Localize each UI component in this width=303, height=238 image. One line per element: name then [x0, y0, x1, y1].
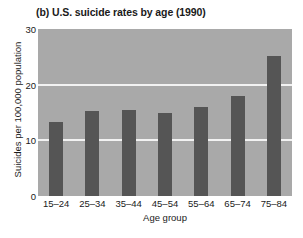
x-tick-label: 25–34 [72, 198, 112, 209]
x-tick-label: 35–44 [109, 198, 149, 209]
x-tick-label: 75–84 [254, 198, 294, 209]
x-tick-label: 55–64 [181, 198, 221, 209]
x-tick-label: 65–74 [218, 198, 258, 209]
y-tick-label: 0 [2, 191, 36, 202]
y-axis-tick-labels: 0102030 [0, 0, 36, 238]
x-axis-tick-labels: 15–2425–3435–4445–5455–6465–7475–84 [38, 0, 292, 238]
y-tick-label: 30 [2, 24, 36, 35]
x-tick-label: 15–24 [36, 198, 76, 209]
x-tick-label: 45–54 [145, 198, 185, 209]
bar-chart-figure: (b) U.S. suicide rates by age (1990) Sui… [0, 0, 303, 238]
y-tick-label: 10 [2, 135, 36, 146]
y-tick-label: 20 [2, 79, 36, 90]
x-axis-label: Age group [38, 212, 292, 223]
